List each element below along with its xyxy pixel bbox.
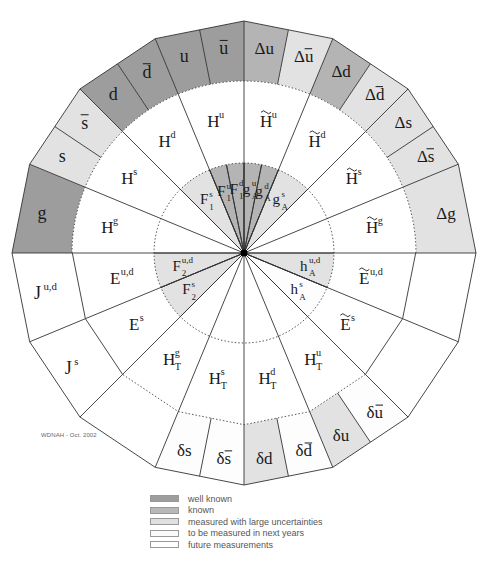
svg-text:g: g: [255, 183, 263, 199]
svg-text:T: T: [270, 380, 277, 391]
svg-text:δs: δs: [216, 449, 231, 468]
svg-text:A: A: [309, 268, 316, 278]
svg-text:E: E: [110, 269, 120, 288]
svg-text:T: T: [316, 361, 323, 372]
svg-text:u,d: u,d: [182, 255, 194, 265]
legend-swatch: [150, 507, 179, 514]
svg-text:h: h: [290, 281, 298, 297]
svg-text:g: g: [175, 347, 180, 358]
label-Ds: Δs: [394, 113, 412, 132]
svg-text:Δs: Δs: [394, 113, 412, 132]
svg-text:F: F: [182, 281, 190, 297]
svg-text:δu: δu: [333, 426, 350, 445]
svg-text:2: 2: [191, 292, 196, 302]
label-dd: δd: [256, 449, 273, 468]
svg-text:δd: δd: [256, 449, 273, 468]
svg-text:d: d: [170, 129, 175, 140]
svg-text:2: 2: [182, 268, 187, 278]
legend-item-well-known: well known: [150, 493, 323, 505]
legend-label: known: [188, 505, 214, 515]
svg-text:s: s: [209, 189, 213, 199]
label-g: g: [37, 203, 46, 223]
svg-text:u: u: [272, 109, 277, 120]
svg-text:d: d: [109, 84, 118, 104]
svg-text:A: A: [264, 193, 271, 203]
label-s: s: [59, 146, 66, 166]
svg-text:s: s: [59, 146, 66, 166]
label-dbar: d: [142, 62, 151, 82]
svg-text:d: d: [320, 129, 325, 140]
label-Du: Δu: [254, 39, 274, 58]
legend: well known known measured with large unc…: [150, 493, 323, 551]
svg-text:s: s: [351, 312, 355, 323]
svg-text:Δd: Δd: [331, 62, 351, 81]
label-d: d: [109, 84, 118, 104]
svg-text:s: s: [133, 166, 137, 177]
svg-text:J: J: [34, 283, 41, 303]
svg-text:d: d: [270, 366, 275, 377]
svg-text:T: T: [221, 380, 228, 391]
svg-text:H: H: [346, 169, 358, 188]
label-Ddbar: Δd: [365, 85, 385, 104]
svg-text:u,d: u,d: [309, 255, 321, 265]
svg-text:s: s: [358, 166, 362, 177]
svg-text:H: H: [159, 132, 171, 151]
spin-structure-diagram: gssdduuΔuΔuΔdΔdΔsΔsΔgδuδuδdδdδsδsJsJu,dH…: [0, 0, 488, 567]
svg-text:g: g: [378, 215, 383, 226]
label-ds: δs: [177, 441, 192, 460]
label-Dubar: Δu: [294, 47, 314, 66]
svg-text:s: s: [191, 279, 195, 289]
svg-text:E: E: [129, 315, 139, 334]
svg-text:s: s: [81, 113, 88, 133]
svg-text:F: F: [230, 181, 238, 197]
label-Dg: Δg: [436, 204, 456, 223]
svg-text:δu: δu: [366, 403, 383, 422]
svg-text:A: A: [299, 292, 306, 302]
svg-text:E: E: [340, 315, 350, 334]
legend-label: to be measured in next years: [188, 528, 304, 538]
credit-text: WDNAH - Oct. 2002: [41, 432, 97, 438]
svg-text:g: g: [37, 203, 46, 223]
svg-text:δd: δd: [296, 441, 313, 460]
svg-text:s: s: [140, 312, 144, 323]
label-Dd: Δd: [331, 62, 351, 81]
svg-text:H: H: [258, 369, 270, 388]
svg-text:h: h: [300, 258, 308, 274]
svg-text:Δu: Δu: [294, 47, 314, 66]
label-dubar: δu: [366, 403, 383, 422]
svg-text:E: E: [359, 269, 369, 288]
svg-text:g: g: [243, 181, 251, 197]
svg-text:H: H: [101, 218, 113, 237]
label-ddbar: δd: [296, 441, 313, 460]
svg-text:H: H: [163, 350, 175, 369]
svg-text:u: u: [219, 109, 224, 120]
svg-text:Δg: Δg: [436, 204, 456, 223]
svg-text:J: J: [65, 358, 72, 378]
center-point: [241, 250, 248, 257]
label-dsbar: δs: [216, 449, 232, 468]
legend-item-large-uncertainties: measured with large uncertainties: [150, 516, 323, 528]
svg-text:H: H: [209, 369, 221, 388]
svg-text:F: F: [173, 258, 181, 274]
legend-item-known: known: [150, 505, 323, 517]
svg-text:H: H: [309, 132, 321, 151]
legend-item-future: future measurements: [150, 539, 323, 551]
svg-text:F: F: [217, 183, 225, 199]
svg-text:δs: δs: [177, 441, 192, 460]
svg-text:u: u: [316, 347, 321, 358]
svg-text:d: d: [142, 62, 151, 82]
legend-swatch: [150, 518, 179, 525]
svg-text:H: H: [121, 169, 133, 188]
legend-item-next-years: to be measured in next years: [150, 528, 323, 540]
svg-text:s: s: [299, 279, 303, 289]
svg-text:F: F: [200, 191, 208, 207]
label-u: u: [180, 46, 189, 66]
label-ubar: u: [219, 38, 228, 58]
svg-text:Δu: Δu: [254, 39, 274, 58]
label-du: δu: [333, 426, 350, 445]
legend-label: well known: [188, 494, 232, 504]
svg-text:s: s: [281, 189, 285, 199]
svg-text:s: s: [74, 355, 78, 367]
svg-text:A: A: [281, 202, 288, 212]
svg-text:H: H: [260, 112, 272, 131]
